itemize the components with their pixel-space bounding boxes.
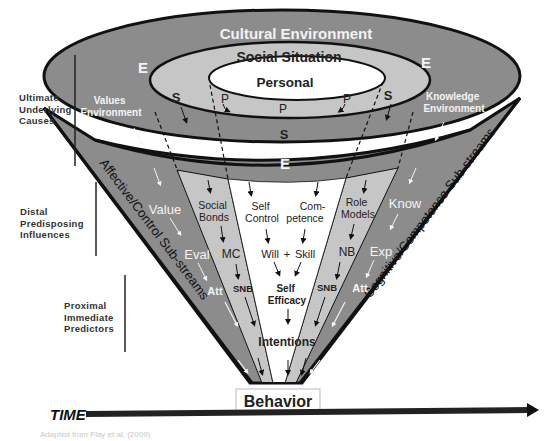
mc-label: MC (222, 247, 241, 261)
social-bonds-label: Social Bonds (198, 199, 230, 223)
att-left-label: Att (207, 285, 223, 297)
level-distal-predisposing-influences: Distal Predisposing Influences (20, 206, 84, 241)
behavior-label: Behavior (244, 393, 312, 410)
level-ultimate-underlying-causes: Ultimate Underlying Causes (19, 92, 72, 127)
level-line: Proximal (64, 300, 114, 312)
knowledge-environment-label: Knowledge Environment (423, 91, 485, 114)
time-label: TIME (50, 406, 87, 423)
marker-s-left: S (172, 90, 181, 105)
marker-e-right: E (421, 54, 431, 71)
marker-p-right: P (343, 92, 351, 106)
level-line: Influences (20, 229, 84, 241)
personal-label: Personal (256, 75, 313, 90)
skill-label: Skill (295, 248, 315, 260)
level-line: Predictors (64, 323, 114, 335)
marker-e-left: E (138, 59, 148, 76)
level-proximal-immediate-predictors: Proximal Immediate Predictors (64, 300, 114, 335)
nb-label: NB (339, 245, 356, 259)
source-caption: Adapted from Flay et al. (2009) (40, 430, 150, 439)
exp-label: Exp (370, 244, 392, 259)
level-line: Distal (20, 206, 84, 218)
will-label: Will (261, 248, 279, 260)
cultural-environment-label: Cultural Environment (220, 25, 373, 42)
eval-label: Eval (184, 247, 209, 262)
marker-p-left: P (221, 92, 229, 106)
att-right-label: Att (352, 282, 368, 294)
time-arrow (86, 410, 529, 414)
intentions-label: Intentions (258, 335, 316, 349)
know-label: Know (389, 196, 422, 211)
marker-s-bottom: S (280, 127, 289, 142)
snb-left-label: SNB (233, 283, 253, 294)
level-line: Causes (19, 115, 72, 127)
marker-s-right: S (384, 88, 393, 103)
level-line: Immediate (64, 312, 114, 324)
level-line: Underlying (19, 104, 72, 116)
marker-p-bottom: P (279, 102, 287, 116)
marker-e-bottom: E (280, 155, 290, 172)
theory-of-triadic-influence-diagram: Cultural Environment Social Situation Pe… (0, 0, 548, 441)
level-line: Predisposing (20, 218, 84, 230)
snb-right-label: SNB (317, 282, 337, 293)
social-situation-label: Social Situation (236, 49, 341, 65)
value-label: Value (149, 202, 181, 217)
level-line: Ultimate (19, 92, 72, 104)
role-models-label: Role Models (341, 196, 375, 220)
plus-label: + (284, 248, 290, 260)
